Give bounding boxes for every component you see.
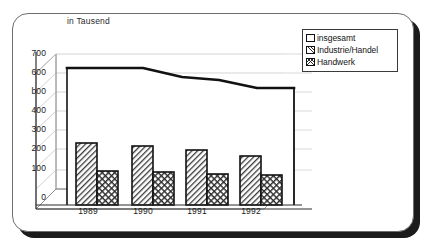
y-axis-tick-600: 600: [16, 67, 46, 77]
x-axis-tick-1992: 1992: [231, 206, 271, 216]
legend-label-industrie-handel: Industrie/Handel: [317, 45, 378, 55]
bar-handwerk-1990: [153, 172, 174, 205]
legend-label-insgesamt: insgesamt: [317, 33, 355, 43]
legend-swatch-hatch-icon: [306, 46, 315, 54]
bar-handwerk-1991: [207, 174, 228, 205]
bar-handwerk-1992: [261, 175, 282, 205]
bar-industrie-handel-1990: [132, 146, 153, 205]
legend-label-handwerk: Handwerk: [317, 57, 355, 67]
chart-title: in Tausend: [67, 16, 110, 26]
y-axis-tick-500: b00: [16, 86, 46, 96]
y-axis-tick-400: 400: [16, 105, 46, 115]
x-axis-tick-1990: 1990: [123, 206, 163, 216]
y-axis-tick-700: 700: [16, 48, 46, 58]
legend-swatch-plain-icon: [306, 34, 315, 42]
y-axis-tick-200: 200: [16, 143, 46, 153]
bar-industrie-handel-1992: [240, 156, 261, 205]
bar-industrie-handel-1989: [76, 143, 97, 205]
legend-item-industrie-handel[interactable]: Industrie/Handel: [306, 44, 395, 56]
legend-item-insgesamt[interactable]: insgesamt: [306, 32, 395, 44]
legend-swatch-cross-icon: [306, 58, 315, 66]
x-axis-tick-1989: 1989: [68, 206, 108, 216]
bar-industrie-handel-1991: [186, 150, 207, 205]
y-axis-tick-0: 0: [16, 192, 46, 202]
x-axis-tick-1991: 1991: [177, 206, 217, 216]
y-axis-tick-300: 300: [16, 124, 46, 134]
legend-item-handwerk[interactable]: Handwerk: [306, 56, 395, 68]
chart-legend: insgesamt Industrie/Handel Handwerk: [302, 29, 398, 72]
bar-handwerk-1989: [97, 171, 118, 205]
y-axis-tick-100: 100: [16, 163, 46, 173]
